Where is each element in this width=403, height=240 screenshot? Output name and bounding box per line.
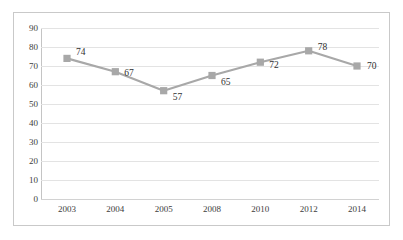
data-label-2008: 65 [221,77,231,87]
series-line [67,51,357,91]
data-marker-2003 [63,55,70,62]
x-tick-label-2005: 2005 [155,204,173,214]
y-axis-tick-labels: 9080706050403020100 [8,0,38,240]
data-label-2014: 70 [367,61,377,71]
data-marker-2012 [305,47,312,54]
y-tick-label-40: 40 [12,119,38,128]
plot-area: 74675765727870 [41,28,379,199]
data-marker-2010 [257,59,264,66]
data-marker-2008 [208,72,215,79]
data-label-2012: 78 [318,42,328,52]
y-tick-label-50: 50 [12,100,38,109]
data-marker-2004 [112,68,119,75]
chart-figure: 9080706050403020100 74675765727870 20032… [0,0,403,240]
x-tick-label-2012: 2012 [300,204,318,214]
gridline-0 [41,199,379,200]
x-axis-tick-labels: 2003200420052008201020122014 [41,204,379,220]
line-series [41,28,379,199]
data-marker-2014 [353,62,360,69]
data-label-2010: 72 [269,60,279,70]
data-label-2004: 67 [124,68,134,78]
x-tick-label-2014: 2014 [348,204,366,214]
y-tick-label-70: 70 [12,62,38,71]
data-label-2005: 57 [173,92,183,102]
x-tick-label-2003: 2003 [58,204,76,214]
y-tick-label-10: 10 [12,176,38,185]
x-tick-label-2010: 2010 [251,204,269,214]
y-tick-label-30: 30 [12,138,38,147]
x-tick-label-2004: 2004 [106,204,124,214]
data-label-2003: 74 [76,47,86,57]
y-tick-label-90: 90 [12,24,38,33]
y-tick-label-20: 20 [12,157,38,166]
x-tick-label-2008: 2008 [203,204,221,214]
y-tick-label-80: 80 [12,43,38,52]
y-tick-label-60: 60 [12,81,38,90]
y-tick-label-0: 0 [12,195,38,204]
data-marker-2005 [160,87,167,94]
